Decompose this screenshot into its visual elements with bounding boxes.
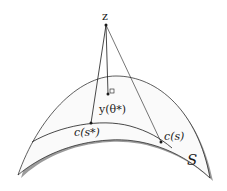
label-surface-s: S <box>187 151 197 169</box>
point-c-s <box>160 141 163 144</box>
label-y-theta: y(θ*) <box>98 103 126 116</box>
label-c-s: c(s) <box>164 130 184 143</box>
point-z <box>105 24 108 27</box>
point-c-s-star <box>90 122 93 125</box>
label-z: z <box>102 10 108 23</box>
label-c-s-star: c(s*) <box>74 126 100 139</box>
point-y-theta <box>107 93 110 96</box>
manifold-projection-diagram: z y(θ*) c(s*) c(s) S <box>0 0 227 191</box>
